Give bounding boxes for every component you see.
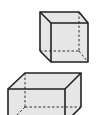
solid-shapes-diagram	[0, 0, 97, 115]
rectangular-prism	[8, 73, 81, 115]
cube	[40, 12, 88, 62]
